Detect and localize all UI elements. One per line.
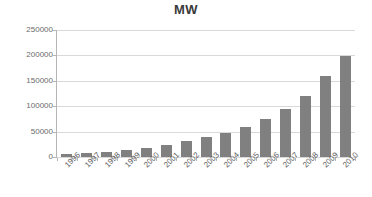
y-axis-tick-mark [53,30,56,31]
bar-chart: MW 050000100000150000200000250000 199619… [0,0,372,197]
bar [300,96,311,157]
x-axis-tick-mark [335,158,336,161]
chart-title: MW [0,2,372,18]
bar [280,109,291,157]
y-axis-tick-label: 150000 [0,77,53,85]
x-axis-tick-mark [295,158,296,161]
bar [240,127,251,157]
y-axis-tick-label: 0 [0,153,53,161]
x-axis-tick-mark [315,158,316,161]
y-axis-tick-mark [53,55,56,56]
x-axis-tick-mark [156,158,157,161]
y-axis-tick-mark [53,157,56,158]
x-axis-tick-mark [276,158,277,161]
x-axis-tick-mark [196,158,197,161]
gridline [57,55,355,56]
y-axis-tick-label: 100000 [0,102,53,110]
x-axis-tick-mark [77,158,78,161]
x-axis-tick-mark [236,158,237,161]
x-axis-tick-mark [256,158,257,161]
x-axis-tick-mark [176,158,177,161]
x-axis-tick-mark [355,158,356,161]
x-axis-tick-mark [57,158,58,161]
y-axis-tick-mark [53,81,56,82]
y-axis-tick-mark [53,106,56,107]
gridline [57,30,355,31]
y-axis-tick-label: 50000 [0,128,53,136]
bar [320,76,331,157]
x-axis-tick-mark [216,158,217,161]
gridline [57,81,355,82]
y-axis-tick-label: 200000 [0,51,53,59]
plot-area [57,30,355,157]
x-axis-tick-mark [117,158,118,161]
x-axis-tick-mark [97,158,98,161]
bar [260,119,271,157]
y-axis-tick-mark [53,132,56,133]
x-axis-tick-mark [136,158,137,161]
y-axis-tick-label: 250000 [0,26,53,34]
bar [340,56,351,157]
